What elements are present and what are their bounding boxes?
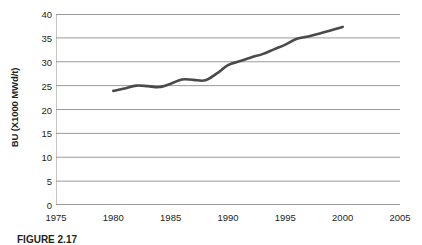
y-tick-label-25: 25 bbox=[41, 80, 52, 91]
y-tick-label-5: 5 bbox=[47, 176, 52, 187]
data-line-series-0 bbox=[113, 27, 342, 91]
line-chart-svg bbox=[56, 14, 400, 205]
x-tick-label-2005: 2005 bbox=[389, 212, 410, 223]
x-tick-label-1990: 1990 bbox=[217, 212, 238, 223]
y-tick-label-15: 15 bbox=[41, 128, 52, 139]
plot-area bbox=[56, 14, 400, 205]
gridlines bbox=[56, 15, 400, 205]
x-axis-tick-labels: 1975198019851990199520002005 bbox=[0, 212, 422, 228]
figure-caption-label: FIGURE 2.17 bbox=[17, 234, 77, 245]
y-tick-label-0: 0 bbox=[47, 200, 52, 211]
y-tick-label-20: 20 bbox=[41, 104, 52, 115]
x-tick-label-1995: 1995 bbox=[275, 212, 296, 223]
figure-root: BU (X1000 MWd/t) 0510152025303540 197519… bbox=[0, 0, 422, 245]
y-tick-label-35: 35 bbox=[41, 32, 52, 43]
x-tick-label-1975: 1975 bbox=[45, 212, 66, 223]
y-tick-label-30: 30 bbox=[41, 56, 52, 67]
y-axis-title-label: BU (X1000 MWd/t) bbox=[10, 68, 21, 148]
x-tick-label-1985: 1985 bbox=[160, 212, 181, 223]
y-tick-label-10: 10 bbox=[41, 152, 52, 163]
x-tick-label-1980: 1980 bbox=[103, 212, 124, 223]
y-axis-tick-labels: 0510152025303540 bbox=[24, 14, 52, 205]
x-tick-label-2000: 2000 bbox=[332, 212, 353, 223]
figure-caption: FIGURE 2.17 bbox=[17, 234, 77, 245]
y-tick-label-40: 40 bbox=[41, 9, 52, 20]
